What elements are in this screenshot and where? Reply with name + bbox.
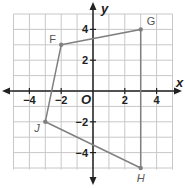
x-tick-label: 2 <box>122 94 128 106</box>
vertex-label-j: J <box>33 122 40 134</box>
y-axis-label: y <box>100 1 109 16</box>
x-axis-left-arrow-icon <box>2 88 10 95</box>
y-tick-label: 4 <box>82 23 89 35</box>
y-tick-label: −2 <box>75 116 88 128</box>
vertex-point-f <box>59 43 63 47</box>
y-tick-label: 2 <box>82 54 88 66</box>
y-axis-down-arrow-icon <box>90 177 97 185</box>
coordinate-plane: yxO−4−22442−2−4FGHJ <box>0 0 185 188</box>
x-axis-label: x <box>175 75 184 90</box>
vertex-point-g <box>139 27 143 31</box>
x-tick-label: −2 <box>55 94 68 106</box>
vertex-label-g: G <box>147 15 156 27</box>
x-tick-label: 4 <box>154 94 161 106</box>
vertex-label-h: H <box>137 172 145 184</box>
y-tick-label: −4 <box>75 147 88 159</box>
vertex-point-j <box>43 120 47 124</box>
vertex-point-h <box>139 166 143 170</box>
y-axis-up-arrow-icon <box>90 2 97 10</box>
vertex-label-f: F <box>49 33 56 45</box>
x-tick-label: −4 <box>23 94 36 106</box>
origin-label: O <box>81 92 91 107</box>
